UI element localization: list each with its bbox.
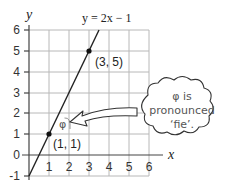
point-1-1-label: (1, 1)	[53, 137, 81, 151]
y-tick: 6	[13, 23, 20, 37]
y-axis-label: y	[24, 7, 33, 22]
x-tick: 1	[46, 160, 53, 174]
y-tick: 4	[13, 65, 20, 79]
graph-figure: y x 6 5 4 3 2 1 0 -1 1 2 3 4 5 6 y = 2x …	[0, 0, 225, 185]
x-tick-labels: 1 2 3 4 5 6	[46, 160, 153, 174]
y-tick-labels: 6 5 4 3 2 1 0 -1	[9, 23, 20, 183]
y-tick: 3	[13, 86, 20, 100]
y-tick: -1	[9, 169, 20, 183]
y-tick: 2	[13, 106, 20, 120]
equation-label: y = 2x − 1	[82, 11, 132, 25]
arrow	[70, 108, 137, 126]
point-3-5	[86, 48, 91, 53]
x-tick: 6	[146, 160, 153, 174]
cloud-text-line-3: ‘fie’.	[170, 118, 194, 131]
x-axis-label: x	[167, 147, 175, 162]
point-3-5-label: (3, 5)	[95, 55, 123, 69]
point-1-1	[46, 131, 51, 136]
x-tick: 2	[66, 160, 73, 174]
x-tick: 5	[126, 160, 133, 174]
y-tick: 5	[13, 44, 20, 58]
x-tick: 3	[86, 160, 93, 174]
x-tick: 4	[106, 160, 113, 174]
cloud-text-line-2: pronounced	[149, 104, 214, 117]
cloud-text-line-1: φ is	[172, 90, 192, 103]
y-tick: 0	[13, 148, 20, 162]
angle-phi-label: φ	[59, 118, 66, 131]
y-tick: 1	[13, 127, 20, 141]
thought-cloud: φ is pronounced ‘fie’.	[142, 77, 215, 135]
